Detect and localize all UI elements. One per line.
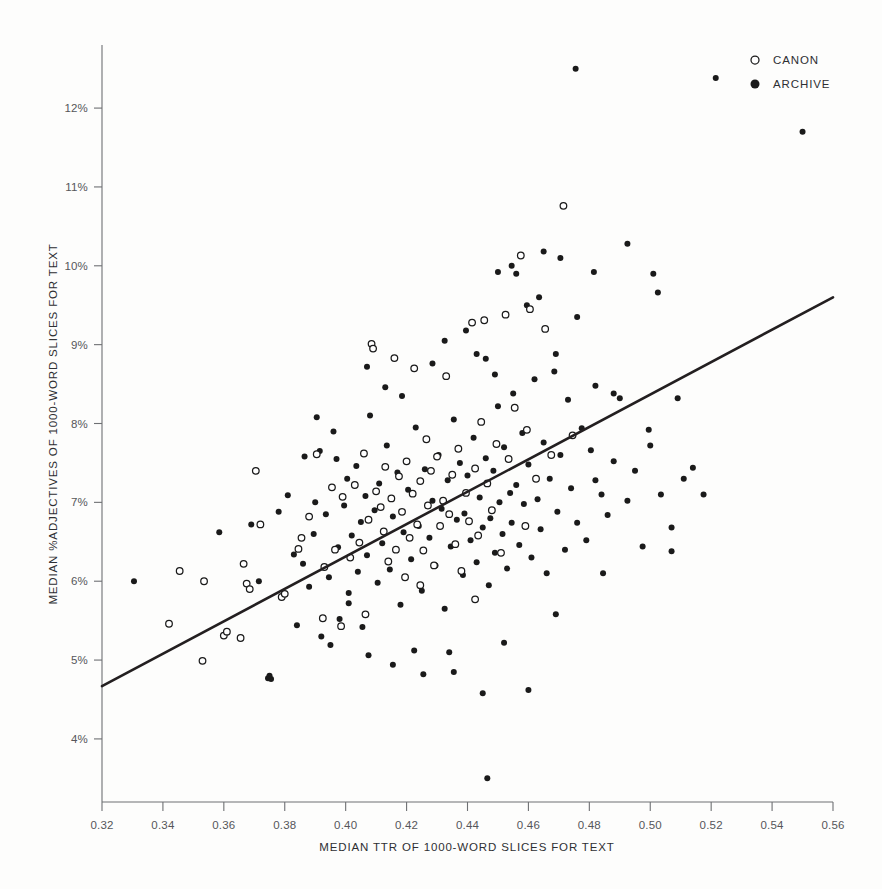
data-point-archive	[477, 495, 483, 501]
data-point-canon	[332, 546, 339, 553]
data-point-canon	[362, 611, 369, 618]
data-point-archive	[669, 525, 675, 531]
data-point-archive	[337, 616, 343, 622]
data-point-archive	[285, 492, 291, 498]
data-point-archive	[617, 395, 623, 401]
data-point-canon	[373, 488, 380, 495]
data-point-archive	[408, 556, 414, 562]
data-point-canon	[246, 586, 253, 593]
x-tick-label: 0.46	[517, 819, 540, 831]
data-point-archive	[312, 499, 318, 505]
data-point-archive	[358, 519, 364, 525]
data-point-archive	[492, 372, 498, 378]
data-point-canon	[403, 458, 410, 465]
data-point-canon	[166, 620, 173, 627]
data-point-canon	[385, 558, 392, 565]
data-point-archive	[487, 515, 493, 521]
data-point-canon	[414, 521, 421, 528]
data-point-archive	[513, 482, 519, 488]
data-point-archive	[583, 537, 589, 543]
data-point-archive	[483, 356, 489, 362]
x-tick-label: 0.44	[456, 819, 480, 831]
data-point-archive	[457, 460, 463, 466]
data-point-archive	[501, 640, 507, 646]
data-point-canon	[502, 311, 509, 318]
data-point-archive	[346, 600, 352, 606]
data-point-archive	[658, 491, 664, 497]
data-point-canon	[393, 546, 400, 553]
x-tick-label: 0.54	[760, 819, 784, 831]
data-point-archive	[323, 511, 329, 517]
data-point-canon	[455, 445, 462, 452]
data-point-archive	[713, 75, 719, 81]
x-tick-label: 0.52	[700, 819, 723, 831]
data-point-canon	[518, 252, 525, 259]
data-point-archive	[382, 384, 388, 390]
data-point-archive	[300, 561, 306, 567]
y-tick-label: 10%	[64, 260, 88, 272]
x-axis-title: MEDIAN TTR OF 1000-WORD SLICES FOR TEXT	[319, 841, 614, 853]
data-point-archive	[632, 468, 638, 474]
data-point-archive	[471, 435, 477, 441]
data-point-canon	[478, 419, 485, 426]
data-point-archive	[468, 537, 474, 543]
legend-label-archive: ARCHIVE	[773, 78, 830, 90]
data-point-archive	[302, 454, 308, 460]
data-point-canon	[399, 509, 406, 516]
data-point-archive	[541, 249, 547, 255]
data-point-archive	[364, 552, 370, 558]
data-point-canon	[522, 523, 529, 530]
data-point-archive	[131, 578, 137, 584]
data-point-archive	[461, 510, 467, 516]
data-point-canon	[361, 450, 368, 457]
data-point-canon	[201, 578, 208, 585]
data-point-canon	[377, 504, 384, 511]
data-point-archive	[565, 397, 571, 403]
data-point-archive	[384, 443, 390, 449]
data-point-canon	[409, 490, 416, 497]
data-point-canon	[472, 596, 479, 603]
data-point-archive	[480, 525, 486, 531]
data-point-archive	[486, 582, 492, 588]
data-point-archive	[681, 476, 687, 482]
data-point-canon	[295, 546, 302, 553]
plot-canvas: 4%5%6%7%8%9%10%11%12% 0.320.340.360.380.…	[0, 0, 882, 889]
data-point-canon	[365, 516, 372, 523]
data-point-archive	[553, 351, 559, 357]
data-point-archive	[291, 551, 297, 557]
data-point-archive	[669, 548, 675, 554]
data-point-archive	[344, 476, 350, 482]
data-point-canon	[475, 532, 482, 539]
data-point-archive	[465, 473, 471, 479]
data-point-canon	[493, 441, 500, 448]
data-point-canon	[199, 658, 206, 665]
data-point-canon	[542, 326, 549, 333]
data-point-archive	[318, 633, 324, 639]
data-point-canon	[396, 473, 403, 480]
data-point-canon	[253, 468, 260, 475]
data-point-archive	[359, 624, 365, 630]
scatter-plot-figure: 4%5%6%7%8%9%10%11%12% 0.320.340.360.380.…	[0, 0, 882, 889]
data-point-canon	[458, 568, 465, 575]
data-point-canon	[428, 468, 435, 475]
y-tick-label: 5%	[71, 654, 88, 666]
data-point-archive	[600, 570, 606, 576]
data-point-archive	[376, 480, 382, 486]
data-point-archive	[216, 529, 222, 535]
data-point-archive	[372, 507, 378, 513]
x-tick-label: 0.50	[639, 819, 662, 831]
data-point-archive	[521, 501, 527, 507]
data-point-canon	[466, 518, 473, 525]
y-tick-label: 8%	[71, 418, 88, 430]
data-point-archive	[640, 544, 646, 550]
data-point-archive	[588, 447, 594, 453]
data-point-canon	[417, 478, 424, 485]
data-point-archive	[445, 477, 451, 483]
data-point-archive	[442, 606, 448, 612]
x-tick-label: 0.34	[151, 819, 175, 831]
x-tick-label: 0.48	[578, 819, 601, 831]
data-point-archive	[349, 532, 355, 538]
data-point-canon	[524, 427, 531, 434]
data-point-canon	[452, 541, 459, 548]
data-point-archive	[411, 648, 417, 654]
